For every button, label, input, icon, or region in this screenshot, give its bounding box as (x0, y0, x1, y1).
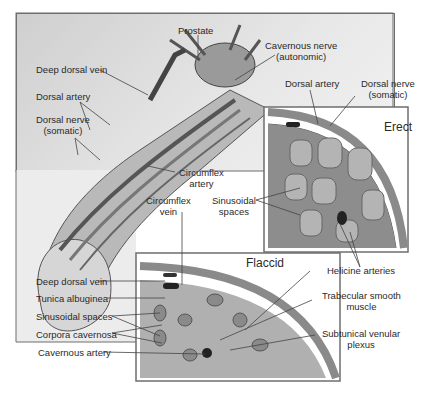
erect-inset-title: Erect (384, 120, 412, 134)
label-dorsal-nerve: Dorsal nerve (somatic) (36, 114, 90, 136)
label-circumflex-vein: Circumflex vein (146, 195, 191, 217)
label-trabecular-smooth-muscle: Trabecular smooth muscle (322, 290, 401, 312)
label-deep-dorsal-vein: Deep dorsal vein (36, 64, 107, 75)
label-cavernous-artery: Cavernous artery (38, 347, 111, 358)
label-flaccid-deep-dorsal-vein: Deep dorsal vein (36, 276, 107, 287)
label-dorsal-artery: Dorsal artery (36, 91, 90, 102)
label-tunica-albuginea: Tunica albuginea (36, 293, 108, 304)
flaccid-inset-title: Flaccid (246, 256, 284, 270)
label-flaccid-sinusoidal-spaces: Sinusoidal spaces (36, 311, 113, 322)
label-prostate: Prostate (178, 25, 213, 36)
label-circumflex-artery: Circumflex artery (179, 167, 224, 189)
label-corpora-cavernosa: Corpora cavernosa (36, 329, 117, 340)
label-erect-dorsal-nerve: Dorsal nerve (somatic) (361, 78, 415, 100)
label-cavernous-nerve: Cavernous nerve (autonomic) (265, 40, 337, 62)
label-helicine-arteries: Helicine arteries (327, 265, 395, 276)
label-erect-dorsal-artery: Dorsal artery (285, 78, 339, 89)
label-subtunical-venular-plexus: Subtunical venular plexus (322, 328, 400, 350)
label-erect-sinusoidal-spaces: Sinusoidal spaces (212, 195, 256, 217)
